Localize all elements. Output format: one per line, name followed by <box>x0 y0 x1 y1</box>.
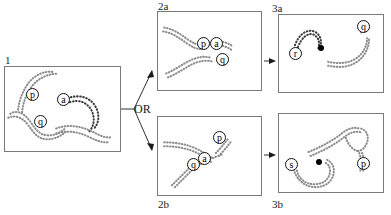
node-q: q <box>187 158 200 171</box>
or-label: OR <box>134 103 151 115</box>
step-arrow-top-head <box>269 58 276 64</box>
node-p: p <box>197 37 210 50</box>
node-q: q <box>34 115 47 128</box>
branch-point-dot <box>316 159 322 165</box>
node-q: q <box>216 53 229 66</box>
figure-canvas: p a q 1 p a q 2a p a q <box>0 0 391 215</box>
node-p: p <box>26 88 39 101</box>
branch-point-dot <box>318 45 324 51</box>
node-a: a <box>210 37 223 50</box>
node-a: a <box>57 93 70 106</box>
branch-arrow-down-head <box>147 143 154 151</box>
step-arrow-bottom-head <box>269 152 276 158</box>
connector-arrows <box>0 0 391 215</box>
node-q: q <box>357 20 370 33</box>
node-r: r <box>289 47 302 60</box>
node-p: p <box>213 131 226 144</box>
node-p: p <box>357 157 370 170</box>
node-s: s <box>285 158 298 171</box>
branch-arrow-up-head <box>147 70 154 78</box>
